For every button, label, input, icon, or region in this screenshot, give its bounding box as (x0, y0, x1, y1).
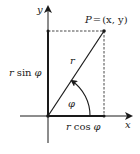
angle-label: φ (68, 98, 75, 109)
y-projection-point (47, 30, 50, 33)
x-axis-label: x (125, 119, 131, 130)
polar-coordinates-diagram: y x P=(x, y) r φ rsinφ rcosφ (0, 0, 140, 154)
point-p (102, 29, 106, 33)
origin-point (46, 114, 50, 118)
radius-line (48, 31, 104, 116)
radius-label: r (70, 55, 76, 66)
horizontal-leg-label: rcosφ (66, 121, 101, 132)
x-projection-point (103, 115, 106, 118)
point-label: P=(x, y) (84, 14, 128, 25)
vertical-leg-label: rsinφ (9, 67, 42, 78)
y-axis-label: y (36, 4, 43, 15)
